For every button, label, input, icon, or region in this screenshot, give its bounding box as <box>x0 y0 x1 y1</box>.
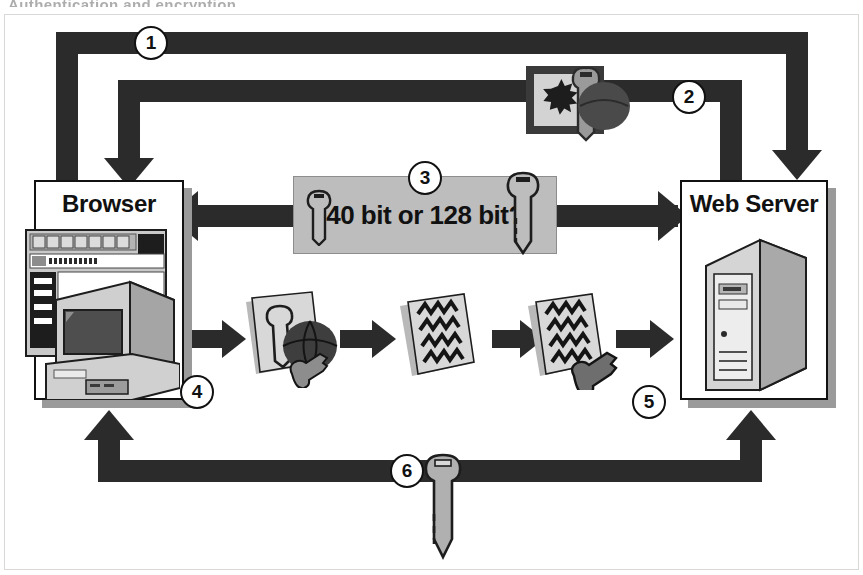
step-6-badge: 6 <box>390 454 424 488</box>
browser-label: Browser <box>36 190 182 218</box>
certificate-with-key-icon <box>512 58 632 142</box>
ssl-handshake-diagram: Authentication and encryption 1 2 <box>0 0 863 575</box>
key-icon-large-right <box>500 170 546 256</box>
tower-server-icon <box>692 222 820 394</box>
step-3-badge: 3 <box>408 161 442 195</box>
cropped-heading: Authentication and encryption <box>8 0 388 7</box>
key-icon-small-left <box>302 188 336 246</box>
step-5-badge: 5 <box>632 385 666 419</box>
encrypted-document-key-icon <box>522 290 634 390</box>
document-key-globe-icon <box>236 288 340 388</box>
step-4-badge: 4 <box>180 375 214 409</box>
desktop-computer-icon <box>22 228 180 400</box>
step-2-badge: 2 <box>672 80 706 114</box>
encrypted-document-icon <box>392 290 488 388</box>
server-label: Web Server <box>682 190 826 218</box>
step-1-badge: 1 <box>134 26 168 60</box>
key-icon-bottom <box>418 452 468 560</box>
